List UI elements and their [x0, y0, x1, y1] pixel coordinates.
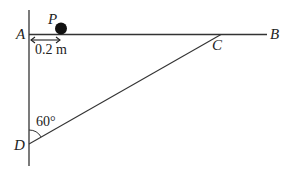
diagram-canvas: P A B C D 0.2 m 60°: [0, 0, 286, 174]
angle-arc: [29, 130, 41, 137]
distance-label: 0.2 m: [35, 42, 67, 57]
angle-label: 60°: [36, 114, 56, 129]
label-d: D: [13, 137, 25, 153]
label-a: A: [15, 26, 26, 42]
label-c: C: [212, 37, 223, 53]
label-b: B: [270, 26, 279, 42]
label-p: P: [47, 11, 57, 27]
